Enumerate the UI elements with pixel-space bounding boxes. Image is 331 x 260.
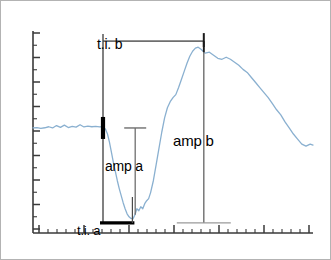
measurement-ti-b (103, 33, 204, 223)
figure-frame: t.i. b t.i. a amp a amp b (0, 0, 331, 260)
x-axis (33, 225, 313, 233)
label-amp-a: amp a (105, 159, 143, 173)
label-ti-a: t.i. a (77, 224, 100, 237)
label-ti-b: t.i. b (97, 37, 122, 51)
waveform-plot (1, 1, 331, 260)
y-axis (33, 31, 40, 233)
y-axis-ticks (33, 33, 40, 229)
measurement-ti-a (100, 197, 134, 223)
label-amp-b: amp b (173, 133, 214, 148)
